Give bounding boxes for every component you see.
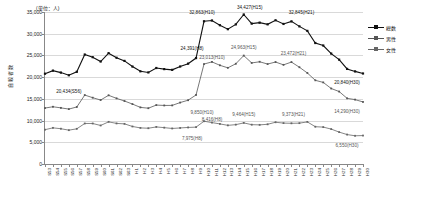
x-tick-label: H28 (349, 168, 354, 176)
x-tick-mark (204, 164, 205, 167)
x-tick-mark (53, 164, 54, 167)
x-tick-label: H15 (245, 168, 250, 176)
x-tick-mark (331, 164, 332, 167)
data-point (203, 20, 205, 22)
x-tick-mark (148, 164, 149, 167)
x-tick-mark (180, 164, 181, 167)
data-point (338, 91, 340, 93)
data-point (251, 23, 253, 25)
data-point (115, 57, 117, 59)
legend-item-男性[interactable]: 男性 (368, 33, 426, 44)
data-point (52, 106, 54, 108)
data-point (259, 22, 261, 24)
data-point (291, 61, 293, 63)
y-tick-label: 0 (39, 161, 42, 167)
data-label: 23,013(H10) (199, 55, 225, 60)
legend-swatch-icon (368, 24, 384, 31)
x-tick-mark (252, 164, 253, 167)
data-point (179, 102, 181, 104)
data-point (322, 126, 324, 128)
data-point (243, 55, 245, 57)
x-tick-mark (45, 164, 46, 167)
data-label: 7,975(H8) (182, 136, 202, 141)
data-point (211, 61, 213, 63)
data-point (330, 52, 332, 54)
legend-label: 男性 (386, 35, 396, 42)
data-point (251, 62, 253, 64)
x-tick-label: S62 (118, 168, 123, 176)
data-point (362, 101, 364, 103)
x-tick-mark (85, 164, 86, 167)
data-point (147, 71, 149, 73)
x-tick-mark (140, 164, 141, 167)
data-point (314, 126, 316, 128)
y-tick-label: 30,000 (27, 31, 42, 37)
data-point (68, 129, 70, 131)
y-tick-label: 35,000 (27, 9, 42, 15)
x-tick-mark (125, 164, 126, 167)
data-point (322, 44, 324, 46)
data-point (243, 122, 245, 124)
data-point (290, 20, 292, 22)
data-point (116, 97, 118, 99)
data-point (346, 134, 348, 136)
data-label: 34,427(H15) (237, 4, 263, 9)
data-point (140, 106, 142, 108)
x-tick-label: H30 (365, 168, 370, 176)
data-label: 14,290(H30) (334, 108, 360, 113)
x-tick-mark (276, 164, 277, 167)
x-tick-mark (77, 164, 78, 167)
legend-item-女性[interactable]: 女性 (368, 44, 426, 55)
x-tick-mark (117, 164, 118, 167)
y-tick-label: 25,000 (27, 52, 42, 58)
x-tick-mark (347, 164, 348, 167)
data-point (338, 131, 340, 133)
x-tick-label: H12 (222, 168, 227, 176)
x-tick-mark (228, 164, 229, 167)
data-point (362, 72, 364, 74)
y-tick-label: 15,000 (27, 96, 42, 102)
x-tick-mark (299, 164, 300, 167)
data-point (124, 123, 126, 125)
data-label: 24,391(H8) (181, 46, 204, 51)
data-point (306, 72, 308, 74)
data-point (267, 23, 269, 25)
x-tick-mark (212, 164, 213, 167)
data-point (171, 128, 173, 130)
data-point (346, 68, 348, 70)
x-tick-label: H23 (309, 168, 314, 176)
data-point (123, 60, 125, 62)
data-point (52, 70, 54, 72)
x-tick-mark (323, 164, 324, 167)
data-point (132, 103, 134, 105)
data-point (68, 108, 70, 110)
x-tick-label: S57 (78, 168, 83, 176)
x-tick-label: S58 (86, 168, 91, 176)
data-point (227, 28, 229, 30)
x-tick-mark (268, 164, 269, 167)
y-axis-title: 自殺者数 (6, 53, 13, 99)
x-tick-mark (339, 164, 340, 167)
data-label: 20,434(S56) (56, 89, 81, 94)
x-tick-mark (164, 164, 165, 167)
x-tick-label: H27 (341, 168, 346, 176)
data-point (346, 97, 348, 99)
data-point (92, 56, 94, 58)
data-point (108, 52, 110, 54)
data-point (298, 25, 300, 27)
data-point (140, 127, 142, 129)
data-point (108, 94, 110, 96)
data-point (155, 67, 157, 69)
x-tick-mark (355, 164, 356, 167)
data-label: 20,840(H30) (334, 80, 360, 85)
x-tick-label: H18 (269, 168, 274, 176)
legend-item-総数[interactable]: 総数 (368, 22, 426, 33)
data-point (227, 124, 229, 126)
data-point (338, 59, 340, 61)
data-point (283, 122, 285, 124)
data-point (306, 121, 308, 123)
legend-swatch-icon (368, 46, 384, 53)
data-point (171, 104, 173, 106)
data-point (195, 57, 197, 59)
x-tick-mark (291, 164, 292, 167)
